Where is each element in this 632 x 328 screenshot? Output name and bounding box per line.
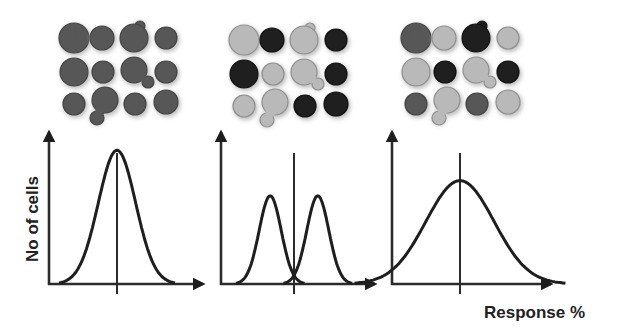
- cell-clusters: [59, 20, 523, 128]
- cell: [260, 28, 287, 55]
- cell-bud-joint: [95, 105, 106, 116]
- cell-body: [63, 93, 85, 115]
- cell: [90, 26, 117, 53]
- plot-homogeneous: [48, 132, 203, 294]
- cell-bud-joint: [134, 28, 142, 36]
- cell: [497, 27, 522, 52]
- cell-body: [262, 63, 284, 85]
- cell: [233, 95, 258, 120]
- cell: [229, 25, 262, 58]
- cell-body: [497, 61, 519, 83]
- cell: [259, 89, 291, 128]
- cell: [434, 61, 459, 86]
- cell-body: [90, 26, 114, 50]
- cell: [230, 60, 261, 91]
- cell-body: [60, 58, 88, 86]
- cell: [294, 95, 319, 120]
- cell-body: [325, 29, 347, 51]
- cell: [497, 61, 522, 86]
- cell: [124, 93, 149, 118]
- histogram-plots: [48, 132, 565, 294]
- cell-body: [434, 61, 456, 83]
- diagram-canvas: No of cells Response %: [0, 0, 632, 328]
- cell-body: [233, 95, 255, 117]
- cell: [466, 93, 491, 118]
- cell: [92, 61, 117, 86]
- cell-cluster-homogeneous: [59, 20, 181, 126]
- cell-body: [402, 58, 430, 86]
- cell-body: [324, 92, 348, 116]
- cell-body: [466, 93, 488, 115]
- cell: [325, 29, 350, 54]
- cell-body: [124, 93, 146, 115]
- cell-body: [154, 90, 178, 114]
- cell-body: [120, 24, 148, 52]
- cell-body: [230, 60, 258, 88]
- plot-bimodal: [220, 132, 375, 294]
- cell-bud-joint: [67, 31, 78, 42]
- cell: [120, 20, 151, 55]
- plot-heterogeneous: [355, 132, 566, 294]
- cell: [324, 92, 351, 119]
- cell: [402, 58, 433, 89]
- cell: [401, 23, 434, 56]
- x-axis-label: Response %: [484, 303, 585, 322]
- cell: [462, 20, 493, 55]
- cell-cluster-heterogeneous: [401, 20, 523, 126]
- cell-body: [290, 26, 318, 54]
- cell-body: [325, 63, 347, 85]
- cell: [89, 87, 121, 126]
- cell-bud-joint: [437, 105, 448, 116]
- cell-body: [155, 61, 177, 83]
- cell-body: [294, 95, 316, 117]
- cell-bud-joint: [307, 74, 316, 83]
- cell: [60, 58, 91, 89]
- cell-body: [462, 24, 490, 52]
- cell: [121, 57, 155, 89]
- cell-bud-joint: [304, 30, 312, 38]
- cell: [405, 93, 430, 118]
- cell: [59, 23, 92, 56]
- cell: [262, 63, 287, 88]
- cell-bud-joint: [265, 107, 276, 118]
- cell: [463, 57, 497, 89]
- cell: [291, 59, 325, 91]
- cell-body: [496, 90, 520, 114]
- cell-body: [432, 26, 456, 50]
- cell: [155, 27, 180, 52]
- cell: [154, 90, 181, 117]
- cell-body: [92, 61, 114, 83]
- cell: [431, 87, 463, 126]
- cell: [155, 61, 180, 86]
- cell: [432, 26, 459, 53]
- cell: [290, 22, 321, 57]
- cell-bud-joint: [137, 72, 146, 81]
- cell-body: [405, 93, 427, 115]
- cell: [496, 90, 523, 117]
- cell-body: [497, 27, 519, 49]
- y-axis-label: No of cells: [23, 176, 42, 262]
- cell-bud-joint: [409, 31, 420, 42]
- cell-bud-joint: [476, 28, 484, 36]
- cell: [325, 63, 350, 88]
- cell: [63, 93, 88, 118]
- cell-bud-joint: [479, 72, 488, 81]
- cell-bud-joint: [237, 33, 248, 44]
- cell-cluster-bimodal: [229, 22, 351, 128]
- cell-body: [155, 27, 177, 49]
- cell-body: [260, 28, 284, 52]
